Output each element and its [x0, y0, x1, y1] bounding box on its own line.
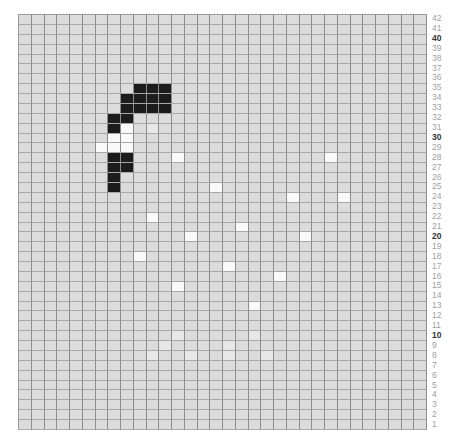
grid-cell [402, 223, 415, 233]
grid-cell [83, 390, 96, 400]
grid-cell [300, 163, 313, 173]
grid-cell [83, 84, 96, 94]
grid-cell [70, 410, 83, 420]
grid-cell [83, 282, 96, 292]
grid-cell [363, 311, 376, 321]
grid-cell [70, 213, 83, 223]
grid-cell [338, 114, 351, 124]
grid-cell [402, 153, 415, 163]
grid-cell [338, 223, 351, 233]
grid-cell [351, 262, 364, 272]
grid-cell [45, 400, 58, 410]
grid-cell [147, 252, 160, 262]
grid-cell [185, 94, 198, 104]
grid-cell [223, 341, 236, 351]
grid-cell [45, 321, 58, 331]
grid-cell [274, 45, 287, 55]
grid-cell [274, 25, 287, 35]
grid-cell [198, 381, 211, 391]
grid-cell [147, 114, 160, 124]
grid-cell [147, 213, 160, 223]
grid-cell [57, 183, 70, 193]
grid-cell [402, 410, 415, 420]
grid-cell [351, 213, 364, 223]
grid-cell [363, 252, 376, 262]
grid-cell [261, 302, 274, 312]
grid-cell [19, 183, 32, 193]
grid-cell [312, 400, 325, 410]
grid-cell [325, 232, 338, 242]
grid-cell [376, 331, 389, 341]
grid-cell [134, 173, 147, 183]
grid-cell [19, 193, 32, 203]
grid-cell [389, 311, 402, 321]
grid-cell [57, 381, 70, 391]
grid-cell [83, 371, 96, 381]
grid-cell [198, 292, 211, 302]
grid-cell [185, 124, 198, 134]
grid-cell [325, 213, 338, 223]
grid-cell [45, 94, 58, 104]
grid-cell [414, 64, 427, 74]
grid-cell [172, 371, 185, 381]
grid-cell [32, 25, 45, 35]
grid-cell [147, 45, 160, 55]
grid-cell [402, 361, 415, 371]
grid-cell [414, 390, 427, 400]
grid-cell [351, 361, 364, 371]
grid-cell [83, 361, 96, 371]
grid-cell [389, 400, 402, 410]
grid-cell [96, 341, 109, 351]
grid-cell [121, 74, 134, 84]
grid-cell [351, 124, 364, 134]
grid-cell [83, 410, 96, 420]
grid-cell [414, 15, 427, 25]
grid-cell [236, 153, 249, 163]
grid-cell [134, 420, 147, 430]
grid-cell [32, 223, 45, 233]
grid-cell [261, 74, 274, 84]
grid-cell [159, 203, 172, 213]
grid-cell [414, 282, 427, 292]
grid-cell [363, 143, 376, 153]
grid-cell [159, 153, 172, 163]
grid-cell [261, 272, 274, 282]
grid-cell [19, 341, 32, 351]
grid-cell [108, 55, 121, 65]
grid-cell [325, 292, 338, 302]
grid-cell [363, 213, 376, 223]
grid-cell [70, 143, 83, 153]
grid-cell [121, 400, 134, 410]
grid-cell [376, 292, 389, 302]
grid-cell [376, 410, 389, 420]
grid-cell [402, 381, 415, 391]
grid-cell [274, 321, 287, 331]
grid-cell [414, 163, 427, 173]
grid-cell [376, 400, 389, 410]
grid-cell [274, 153, 287, 163]
grid-cell [32, 302, 45, 312]
grid-cell [414, 311, 427, 321]
grid-cell [45, 361, 58, 371]
grid-cell [185, 25, 198, 35]
grid-cell [261, 203, 274, 213]
grid-cell [389, 302, 402, 312]
grid-cell [172, 311, 185, 321]
grid-cell [108, 163, 121, 173]
pattern-chart-grid [18, 14, 427, 430]
grid-cell [274, 232, 287, 242]
grid-cell [414, 114, 427, 124]
grid-cell [45, 74, 58, 84]
grid-cell [376, 25, 389, 35]
grid-cell [261, 114, 274, 124]
grid-cell [261, 351, 274, 361]
grid-cell [236, 74, 249, 84]
grid-cell [287, 420, 300, 430]
grid-cell [147, 371, 160, 381]
grid-cell [147, 390, 160, 400]
grid-cell [96, 64, 109, 74]
grid-cell [83, 223, 96, 233]
grid-cell [402, 163, 415, 173]
grid-cell [402, 420, 415, 430]
grid-cell [70, 292, 83, 302]
